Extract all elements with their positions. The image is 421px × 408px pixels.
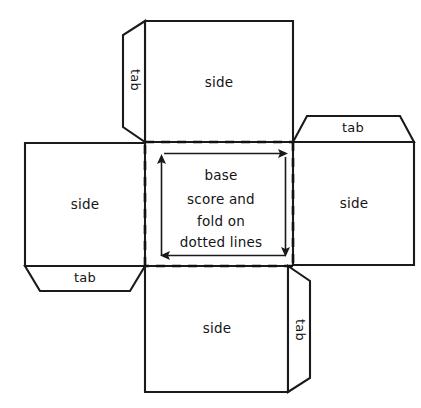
label-base-line2: score and <box>187 191 255 207</box>
label-base-line3: fold on <box>197 213 245 229</box>
label-base-line1: base <box>205 167 238 183</box>
label-tab-bottom-right: tab <box>293 319 308 341</box>
cube-net-diagram: side side side side tab tab tab tab base… <box>0 0 421 408</box>
label-tab-top-left: tab <box>128 69 143 91</box>
label-tab-right-top: tab <box>342 120 364 135</box>
label-right-side: side <box>340 195 368 211</box>
label-bottom-side: side <box>203 320 231 336</box>
label-base-line4: dotted lines <box>180 234 262 250</box>
label-left-side: side <box>71 196 99 212</box>
label-tab-left-bottom: tab <box>74 270 96 285</box>
label-top-side: side <box>205 74 233 90</box>
net-canvas: side side side side tab tab tab tab base… <box>0 0 421 408</box>
